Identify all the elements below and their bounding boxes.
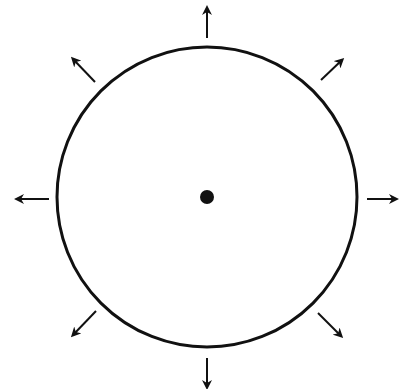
arrow-up-right-icon <box>321 60 342 80</box>
arrow-down-left-icon <box>73 311 96 335</box>
center-point <box>200 190 214 204</box>
arrow-up-left-icon <box>73 59 95 82</box>
arrow-down-right-icon <box>318 313 341 336</box>
expansion-diagram <box>0 0 404 389</box>
